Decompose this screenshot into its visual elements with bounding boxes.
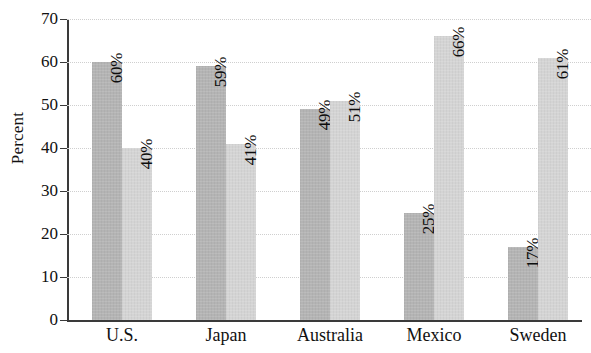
bar: 49%: [300, 109, 330, 320]
bar-value-label: 40%: [137, 139, 157, 170]
bar: 40%: [122, 148, 152, 320]
plot-area: 70605040302010060%40%59%41%49%51%25%66%1…: [67, 19, 591, 320]
legend-label-series-1: Series 1: [254, 0, 292, 3]
chart-legend: Series 1 Series 2: [0, 0, 591, 3]
bar-value-label: 41%: [241, 134, 261, 165]
y-axis-tick: [60, 191, 67, 192]
y-axis-tick-label: 70: [41, 9, 58, 29]
y-axis-tick: [60, 62, 67, 63]
y-axis-tick: [60, 320, 67, 321]
legend-item-series-2: Series 2: [299, 0, 358, 3]
bar: 25%: [404, 213, 434, 321]
y-axis-tick-label: 20: [41, 224, 58, 244]
bar: 66%: [434, 36, 464, 320]
x-axis-category-label: Sweden: [486, 325, 590, 346]
x-axis-category-label: Japan: [174, 325, 278, 346]
y-axis-tick: [60, 234, 67, 235]
x-axis-category-label: U.S.: [70, 325, 174, 346]
gridline: [67, 19, 591, 20]
bar: 61%: [538, 58, 568, 320]
bar-value-label: 66%: [449, 27, 469, 58]
gridline: [67, 62, 591, 63]
y-axis-tick-label: 60: [41, 52, 58, 72]
x-axis-category-label: Australia: [278, 325, 382, 346]
y-axis-tick: [60, 148, 67, 149]
bar: 41%: [226, 144, 256, 320]
bar-value-label: 61%: [553, 48, 573, 79]
bar-value-label: 51%: [345, 91, 365, 122]
x-axis-category-label: Mexico: [382, 325, 486, 346]
y-axis-tick-label: 0: [50, 310, 59, 330]
legend-label-series-2: Series 2: [320, 0, 358, 3]
bar: 51%: [330, 101, 360, 320]
bar: 59%: [196, 66, 226, 320]
bar-value-label: 60%: [107, 53, 127, 84]
bar: 60%: [92, 62, 122, 320]
y-axis-title: Percent: [8, 68, 28, 208]
y-axis-tick: [60, 277, 67, 278]
y-axis-tick: [60, 19, 67, 20]
y-axis-tick: [60, 105, 67, 106]
bar-chart: Series 1 Series 2 Percent 70605040302010…: [0, 0, 591, 353]
y-axis-tick-label: 30: [41, 181, 58, 201]
y-axis-tick-label: 50: [41, 95, 58, 115]
y-axis-tick-label: 40: [41, 138, 58, 158]
bar-value-label: 59%: [211, 57, 231, 88]
y-axis-tick-label: 10: [41, 267, 58, 287]
legend-item-series-1: Series 1: [233, 0, 292, 3]
x-axis-line: [67, 320, 582, 322]
bar: 17%: [508, 247, 538, 320]
